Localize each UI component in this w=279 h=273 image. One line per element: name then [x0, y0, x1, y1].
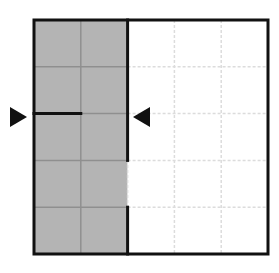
shaded-cell [81, 67, 128, 114]
empty-cell [221, 114, 268, 161]
empty-cell [221, 67, 268, 114]
shaded-cell [81, 160, 128, 207]
shaded-cell [81, 207, 128, 254]
empty-cell [128, 20, 175, 67]
shaded-cell [34, 67, 81, 114]
empty-cell [174, 207, 221, 254]
empty-cell [174, 20, 221, 67]
left-marker-arrow-icon [10, 107, 27, 127]
shaded-cell [34, 114, 81, 161]
empty-cell [128, 207, 175, 254]
empty-cell [221, 20, 268, 67]
empty-cell [174, 67, 221, 114]
grid-puzzle-diagram [0, 0, 279, 273]
grid-cells [34, 20, 268, 254]
empty-cell [174, 160, 221, 207]
shaded-cell [34, 160, 81, 207]
empty-cell [221, 160, 268, 207]
shaded-cell [81, 20, 128, 67]
empty-cell [221, 207, 268, 254]
shaded-cell [34, 207, 81, 254]
empty-cell [128, 67, 175, 114]
shaded-cell [81, 114, 128, 161]
empty-cell [174, 114, 221, 161]
empty-cell [128, 160, 175, 207]
shaded-cell [34, 20, 81, 67]
empty-cell [128, 114, 175, 161]
